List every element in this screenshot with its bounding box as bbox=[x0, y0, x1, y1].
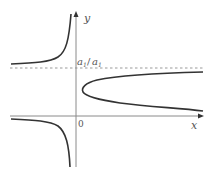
x-axis-arrow-icon bbox=[198, 114, 204, 119]
svg-text:/: / bbox=[87, 56, 91, 67]
y-axis-label: y bbox=[83, 12, 91, 25]
curve-upper-left-branch bbox=[11, 14, 71, 64]
function-graph: y x 0 a 1 / a 1 bbox=[0, 0, 214, 173]
svg-text:1: 1 bbox=[98, 61, 102, 68]
y-axis-arrow-icon bbox=[74, 11, 79, 17]
x-axis-label: x bbox=[191, 119, 198, 132]
curve-lower-left-branch bbox=[11, 119, 70, 167]
asymptote-label: a 1 / a 1 bbox=[77, 56, 102, 68]
origin-label: 0 bbox=[78, 119, 84, 129]
curve-right-branch bbox=[83, 72, 203, 111]
